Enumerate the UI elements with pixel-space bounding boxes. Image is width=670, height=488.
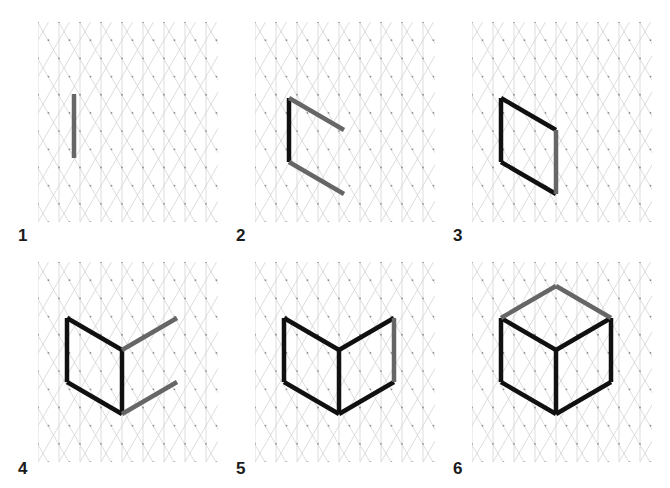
panel-2 (255, 22, 435, 222)
drawing-step-4 (38, 262, 218, 462)
panel-label-5: 5 (236, 460, 245, 477)
drawing-step-2 (255, 22, 435, 222)
edge-upper-right-diagonal-new (122, 318, 177, 350)
edge-top-right-diagonal-existing (556, 318, 611, 350)
panel-3 (472, 22, 652, 222)
edge-top-left-diagonal-existing (501, 318, 556, 350)
drawing-step-5 (255, 262, 435, 462)
edge-top-left-diagonal-existing (284, 318, 339, 350)
drawing-step-1 (38, 22, 218, 222)
panel-label-1: 1 (18, 227, 27, 244)
drawing-step-3 (472, 22, 652, 222)
edge-top-face-left-new (501, 286, 556, 318)
edge-bottom-right-diagonal-existing (339, 382, 394, 414)
edge-bottom-left-diagonal-existing (501, 382, 556, 414)
edge-bottom-diagonal-existing (501, 162, 556, 194)
panel-label-3: 3 (453, 227, 462, 244)
figure-sheet: 1 2 3 (0, 0, 670, 488)
panel-6 (472, 262, 652, 462)
edge-bottom-diagonal-new (289, 162, 344, 194)
edge-bottom-right-diagonal-existing (556, 382, 611, 414)
panel-1 (38, 22, 218, 222)
edge-top-face-right-new (556, 286, 611, 318)
panel-label-6: 6 (453, 460, 462, 477)
edge-top-diagonal-new (289, 98, 344, 130)
edge-top-right-diagonal-existing (339, 318, 394, 350)
edge-bottom-left-diagonal-existing (284, 382, 339, 414)
edge-bottom-diagonal-existing (67, 382, 122, 414)
edge-lower-right-diagonal-new (122, 382, 177, 414)
panel-4 (38, 262, 218, 462)
edge-top-diagonal-existing (67, 318, 122, 350)
drawing-step-6 (472, 262, 652, 462)
edge-top-diagonal-existing (501, 98, 556, 130)
panel-label-4: 4 (18, 460, 27, 477)
panel-5 (255, 262, 435, 462)
panel-label-2: 2 (236, 227, 245, 244)
